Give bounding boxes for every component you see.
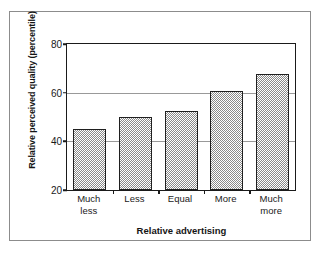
bar <box>119 117 152 190</box>
y-axis-title: Relative perceived quality (percentile) <box>27 5 37 175</box>
x-axis-title: Relative advertising <box>66 225 297 236</box>
bar <box>73 129 106 190</box>
x-tick-label: Less <box>112 193 158 205</box>
bar <box>210 91 243 190</box>
x-axis-tick-labels: Much lessLessEqualMoreMuch more <box>66 193 297 227</box>
bar <box>165 111 198 190</box>
y-tick-label: 20 <box>51 185 62 196</box>
plot-area: 20406080 <box>66 43 296 191</box>
bar <box>256 74 289 190</box>
y-tick-label: 80 <box>51 39 62 50</box>
x-tick-label: More <box>203 193 249 205</box>
y-tick-label: 40 <box>51 136 62 147</box>
figure-frame: Relative perceived quality (percentile) … <box>9 11 311 241</box>
x-tick-label: Equal <box>157 193 203 205</box>
y-tick-label: 60 <box>51 87 62 98</box>
bars-layer <box>67 44 295 190</box>
x-tick-label: Much less <box>66 193 112 216</box>
x-tick-label: Much more <box>248 193 294 216</box>
